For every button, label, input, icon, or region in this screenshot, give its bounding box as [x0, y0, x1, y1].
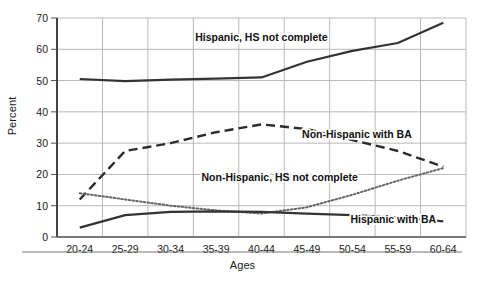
- y-tick-label: 20: [36, 168, 48, 180]
- x-axis-title: Ages: [0, 259, 485, 271]
- line-chart-plot: 010203040506070 20-2425-2930-3435-3940-4…: [0, 0, 485, 283]
- series-paths: [80, 23, 444, 228]
- x-axis-ticks: 20-2425-2930-3435-3940-4445-4950-5455-59…: [66, 243, 457, 255]
- y-tick-label: 30: [36, 137, 48, 149]
- y-tick-label: 40: [36, 106, 48, 118]
- y-axis-title: Percent: [6, 86, 18, 146]
- x-tick-label: 20-24: [66, 243, 93, 255]
- series-annotation: Hispanic with BA: [350, 213, 436, 225]
- y-tick-label: 10: [36, 200, 48, 212]
- series-annotation: Hispanic, HS not complete: [195, 31, 328, 43]
- series-annotation: Non-Hispanic with BA: [302, 128, 412, 140]
- y-tick-label: 0: [42, 231, 48, 243]
- x-tick-label: 35-39: [203, 243, 230, 255]
- chart-figure: 010203040506070 20-2425-2930-3435-3940-4…: [0, 0, 485, 283]
- x-tick-label: 60-64: [430, 243, 457, 255]
- y-tick-label: 50: [36, 75, 48, 87]
- x-tick-label: 45-49: [294, 243, 321, 255]
- y-tick-label: 60: [36, 43, 48, 55]
- y-tick-label: 70: [36, 12, 48, 24]
- x-tick-label: 50-54: [339, 243, 366, 255]
- y-axis-ticks: 010203040506070: [36, 12, 57, 243]
- x-tick-label: 30-34: [157, 243, 184, 255]
- series-annotation: Non-Hispanic, HS not complete: [201, 171, 358, 183]
- x-tick-label: 25-29: [112, 243, 139, 255]
- x-tick-label: 40-44: [248, 243, 275, 255]
- x-tick-label: 55-59: [384, 243, 411, 255]
